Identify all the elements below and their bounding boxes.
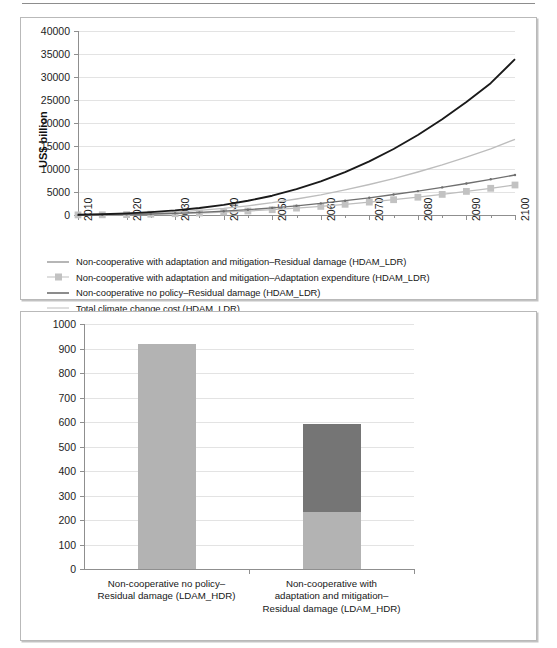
page-top-rule [22, 3, 535, 4]
top-chart-x-tick [321, 215, 322, 220]
top-chart-x-tick-label: 2080 [422, 198, 434, 221]
legend-key-icon [45, 255, 71, 269]
top-chart-x-tick [369, 215, 370, 220]
top-chart-x-tick [224, 215, 225, 220]
bottom-chart-x-tick [414, 569, 415, 574]
top-chart-x-tick [248, 215, 249, 218]
bottom-chart-gridline [84, 398, 414, 399]
top-chart-x-tick-label: 2010 [82, 198, 94, 221]
bottom-chart-y-tick-label: 200 [40, 514, 76, 526]
top-chart-y-tick-label: 5000 [30, 186, 70, 198]
top-chart-x-tick-label: 2090 [470, 198, 482, 221]
top-chart-x-tick-label: 2070 [373, 198, 385, 221]
top-chart-x-tick [272, 215, 273, 220]
category-label-line: Residual damage (LDAM_HDR) [247, 603, 417, 615]
legend-square-icon [55, 274, 62, 281]
category-label-line: Non-cooperative with [247, 578, 417, 590]
top-chart-x-tick [442, 215, 443, 218]
top-chart-x-tick [515, 215, 516, 220]
top-chart-gridline [78, 192, 515, 193]
bottom-chart-gridline [84, 520, 414, 521]
legend-key-icon [45, 286, 71, 300]
bottom-chart-y-tick-label: 1000 [40, 318, 76, 330]
top-chart-x-tick [102, 215, 103, 218]
top-chart-panel: 0500010000150002000025000300003500040000… [20, 17, 537, 300]
top-chart-y-tick-label: 30000 [30, 71, 70, 83]
bottom-chart-gridline [84, 471, 414, 472]
bottom-chart-gridline [84, 373, 414, 374]
top-chart-y-axis-title: US$ billion [37, 111, 49, 168]
bottom-chart-y-tick-label: 600 [40, 416, 76, 428]
bottom-chart-y-tick-label: 0 [40, 563, 76, 575]
top-chart-x-tick-label: 2100 [519, 198, 531, 221]
top-chart-x-tick-label: 2020 [131, 198, 143, 221]
top-chart-gridline [78, 100, 515, 101]
bottom-chart-y-axis-line [84, 324, 85, 569]
top-chart-gridline [78, 123, 515, 124]
bottom-chart-panel: 01002003004005006007008009001000 Non-coo… [20, 311, 537, 641]
bottom-chart-gridline [84, 324, 414, 325]
bottom-chart-gridline [84, 496, 414, 497]
top-chart-y-tick-label: 20000 [30, 117, 70, 129]
bottom-chart-y-tick-label: 300 [40, 490, 76, 502]
bottom-chart-y-tick-label: 400 [40, 465, 76, 477]
bottom-chart-y-tick-label: 500 [40, 441, 76, 453]
top-chart-y-tick-label: 15000 [30, 140, 70, 152]
bottom-chart-gridline [84, 545, 414, 546]
top-chart-legend: Non-cooperative with adaptation and miti… [45, 254, 515, 316]
top-chart-x-tick-label: 2060 [325, 198, 337, 221]
bottom-chart-bar-segment[interactable] [138, 344, 196, 569]
category-label-line: adaptation and mitigation– [247, 590, 417, 602]
top-chart-x-tick-label: 2050 [276, 198, 288, 221]
top-chart-x-tick [151, 215, 152, 218]
bottom-chart-y-tick-label: 100 [40, 539, 76, 551]
top-chart-x-tick [394, 215, 395, 218]
legend-key-icon [45, 270, 71, 284]
bottom-chart-gridline [84, 349, 414, 350]
top-chart-x-tick [175, 215, 176, 220]
top-chart-y-tick-label: 0 [30, 209, 70, 221]
top-chart-x-tick [127, 215, 128, 220]
top-chart-gridline [78, 54, 515, 55]
top-chart-gridline [78, 77, 515, 78]
top-chart-legend-item[interactable]: Non-cooperative with adaptation and miti… [45, 270, 515, 286]
bottom-chart-gridline [84, 422, 414, 423]
category-label-line: Non-cooperative no policy– [82, 578, 252, 590]
top-chart-gridline [78, 146, 515, 147]
top-chart-gridline [78, 169, 515, 170]
top-chart-x-tick [491, 215, 492, 218]
bottom-chart-category-label: Non-cooperative no policy–Residual damag… [82, 578, 252, 603]
top-chart-gridline [78, 31, 515, 32]
bottom-chart-category-label: Non-cooperative withadaptation and mitig… [247, 578, 417, 615]
top-chart-y-tick-label: 10000 [30, 163, 70, 175]
bottom-chart-y-tick-label: 800 [40, 367, 76, 379]
top-chart-legend-item[interactable]: Non-cooperative with adaptation and miti… [45, 254, 515, 270]
top-chart-y-tick-label: 35000 [30, 48, 70, 60]
top-chart-x-tick [199, 215, 200, 218]
top-chart-legend-label: Non-cooperative with adaptation and miti… [76, 272, 430, 283]
top-chart-legend-item[interactable]: Non-cooperative no policy–Residual damag… [45, 285, 515, 301]
top-chart-x-tick-label: 2030 [179, 198, 191, 221]
top-chart-y-axis-line [78, 31, 79, 215]
bottom-chart-bar-segment[interactable] [303, 424, 361, 512]
top-chart-x-tick [418, 215, 419, 220]
bottom-chart-x-tick [249, 569, 250, 574]
top-chart-y-tick-label: 40000 [30, 25, 70, 37]
bottom-chart-bar-segment[interactable] [303, 512, 361, 569]
top-chart-y-tick-label: 25000 [30, 94, 70, 106]
bottom-chart-y-tick-label: 700 [40, 392, 76, 404]
top-chart-x-tick [297, 215, 298, 218]
bottom-chart-gridline [84, 447, 414, 448]
bottom-chart-y-tick-label: 900 [40, 343, 76, 355]
category-label-line: Residual damage (LDAM_HDR) [82, 590, 252, 602]
top-chart-legend-label: Non-cooperative with adaptation and miti… [76, 256, 406, 267]
top-chart-x-tick-label: 2040 [228, 198, 240, 221]
top-chart-x-tick [466, 215, 467, 220]
top-chart-x-tick [345, 215, 346, 218]
top-chart-legend-label: Non-cooperative no policy–Residual damag… [76, 287, 320, 298]
top-chart-x-tick [78, 215, 79, 220]
